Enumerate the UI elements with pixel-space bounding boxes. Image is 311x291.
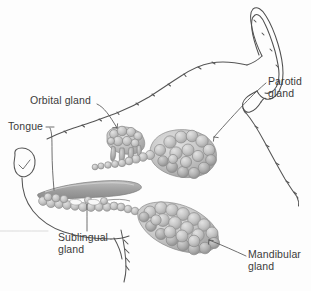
label-tongue-line1: Tongue [8,121,43,133]
illustration-page: Orbital gland Tongue Parotid gland Subli… [0,0,311,291]
label-parotid-gland-line2: gland [268,88,302,100]
tongue [14,148,35,177]
label-orbital-gland-line1: Orbital gland [30,95,91,107]
leader-parotid [214,83,266,137]
sublingual-gland [38,181,142,215]
label-sublingual-gland-line2: gland [58,244,108,256]
label-tongue: Tongue [8,121,43,133]
label-mandibular-gland-line2: gland [248,261,301,273]
label-orbital-gland: Orbital gland [30,95,91,107]
label-mandibular-gland-line1: Mandibular [248,249,301,261]
parotid-gland [150,130,217,179]
label-sublingual-gland: Sublingual gland [58,232,108,255]
label-parotid-gland: Parotid gland [268,76,302,99]
label-parotid-gland-line1: Parotid [268,76,302,88]
label-sublingual-gland-line1: Sublingual [58,232,108,244]
label-mandibular-gland: Mandibular gland [248,249,301,272]
mandibular-gland [138,202,220,255]
